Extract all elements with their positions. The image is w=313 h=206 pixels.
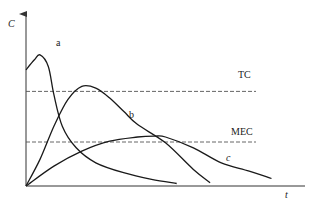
tc-label: TC <box>238 69 251 80</box>
curve-a <box>26 55 177 184</box>
mec-label: MEC <box>231 126 253 137</box>
curve-c-label: c <box>226 152 231 163</box>
curve-a-label: a <box>56 37 61 48</box>
y-axis-label: C <box>8 18 15 29</box>
x-axis-label: t <box>285 189 288 200</box>
concentration-time-diagram: C t a b c TC MEC <box>0 0 313 206</box>
curve-b-label: b <box>129 109 134 120</box>
